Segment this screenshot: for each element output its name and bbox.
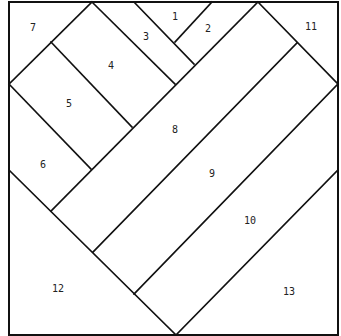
quilt-block-diagram: 1 2 3 4 5 6 7 8 9 10 11 12 13	[0, 0, 341, 336]
piece-label-7: 7	[30, 23, 36, 33]
piece-label-3: 3	[143, 32, 149, 42]
edge-8-9-boundary	[93, 43, 297, 252]
piece-label-8: 8	[172, 125, 178, 135]
edge-4-3-boundary	[92, 2, 175, 84]
edge-4-5-boundary	[51, 42, 132, 127]
piece-label-2: 2	[205, 24, 211, 34]
piece-label-13: 13	[283, 287, 295, 297]
piece-label-6: 6	[40, 160, 46, 170]
piece-label-4: 4	[108, 61, 114, 71]
piece-label-12: 12	[52, 284, 64, 294]
piece-label-5: 5	[66, 99, 72, 109]
piece-label-9: 9	[209, 169, 215, 179]
edge-10-13-boundary	[176, 170, 338, 335]
edge-2-8-diagonal	[51, 2, 258, 211]
piece-label-11: 11	[305, 22, 317, 32]
edge-1-2-boundary	[175, 2, 212, 42]
piece-label-1: 1	[172, 12, 178, 22]
edge-12-diagonal	[9, 170, 176, 335]
edge-9-10-boundary	[134, 84, 338, 294]
piece-label-10: 10	[244, 216, 256, 226]
edge-5-6-boundary	[9, 84, 91, 169]
